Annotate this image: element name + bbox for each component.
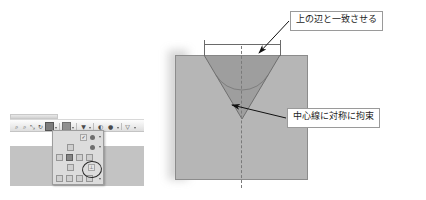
view-orientation-icon[interactable]: ▼ <box>80 123 87 130</box>
section-view-icon[interactable]: ▽ <box>124 123 131 130</box>
auto-constraint-icon[interactable]: ✓ <box>80 134 87 141</box>
callout-symmetric-constraint: 中心線に対称に拘束 <box>287 108 380 128</box>
dimension-extension-right <box>280 40 281 56</box>
vertical-icon[interactable] <box>76 154 83 161</box>
dimension-icon[interactable] <box>56 175 63 182</box>
concentric-icon[interactable] <box>67 144 74 151</box>
coincident-icon[interactable] <box>90 135 95 140</box>
horizontal-icon[interactable] <box>66 154 73 161</box>
cad-sketch-drawing <box>150 6 420 194</box>
callout-match-top-edge: 上の辺と一致させる <box>290 11 383 31</box>
v-groove-shape <box>204 55 280 119</box>
dimension-line <box>204 44 281 45</box>
view-orientation-caret-icon[interactable] <box>89 127 91 129</box>
row5-caret-icon[interactable] <box>99 178 101 180</box>
dimension-extension-left <box>204 40 205 56</box>
toolbar-separator <box>59 123 60 130</box>
section-view-caret-icon[interactable] <box>134 127 136 129</box>
angular-dim-icon[interactable] <box>76 175 83 182</box>
row1-caret-icon[interactable] <box>99 136 101 138</box>
rotate-icon[interactable]: ↻ <box>37 123 44 130</box>
constraint-dropdown-caret-icon[interactable] <box>55 127 57 129</box>
pan-icon[interactable]: ⤡ <box>29 123 36 130</box>
zoom-in-icon[interactable]: ⌕ <box>13 123 20 130</box>
centerline[interactable] <box>241 46 242 188</box>
hand-drawn-ellipse-annotation <box>81 160 103 179</box>
constraint-flyout-panel[interactable]: ✓ ⊥ <box>52 130 104 185</box>
row2-caret-icon[interactable] <box>99 146 101 148</box>
appearance-icon[interactable]: ● <box>107 123 114 130</box>
smooth-icon[interactable] <box>67 164 74 171</box>
toolbar-separator <box>121 123 122 130</box>
perpendicular-icon[interactable] <box>56 154 63 161</box>
zoom-out-icon[interactable]: ⌕ <box>21 123 28 130</box>
display-style-caret-icon[interactable] <box>72 127 74 129</box>
cad-application-capture: ⌕ ⌕ ⤡ ↻ ▼ ◐ ● ▽ ✓ <box>10 114 144 186</box>
diagram-page: ⌕ ⌕ ⤡ ↻ ▼ ◐ ● ▽ ✓ <box>0 0 426 200</box>
fix-icon[interactable] <box>90 145 95 150</box>
linear-dim-icon[interactable] <box>66 175 73 182</box>
appearance-caret-icon[interactable] <box>117 127 119 129</box>
shadow-icon[interactable]: ◐ <box>97 123 104 130</box>
toolbar-separator <box>93 123 94 130</box>
toolbar-separator <box>76 123 77 130</box>
